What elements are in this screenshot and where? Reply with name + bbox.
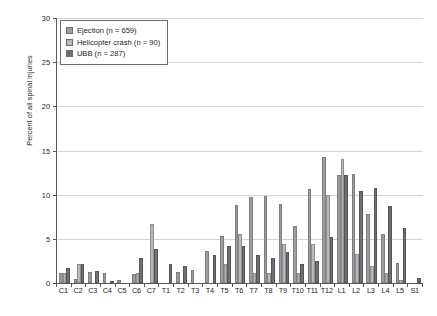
- x-axis-tick-label: C3: [85, 286, 100, 295]
- bar: [183, 266, 187, 283]
- legend-swatch-icon: [66, 50, 73, 57]
- bar: [154, 249, 158, 283]
- bar: [139, 258, 143, 283]
- x-axis-tick-label: T8: [261, 286, 276, 295]
- x-axis-tick-label: C4: [100, 286, 115, 295]
- x-axis-tick-label: T10: [290, 286, 305, 295]
- x-axis-tick-label: C6: [129, 286, 144, 295]
- bar-group: [335, 18, 350, 283]
- x-axis-tick-label: L1: [334, 286, 349, 295]
- bar-group: [233, 18, 248, 283]
- bar: [264, 196, 268, 283]
- y-axis-tick: [53, 151, 57, 152]
- bar: [359, 191, 363, 283]
- bar-group: [277, 18, 292, 283]
- x-axis-tick-label: T5: [217, 286, 232, 295]
- bar: [213, 255, 217, 283]
- bar-group: [379, 18, 394, 283]
- x-axis-tick-label: T6: [232, 286, 247, 295]
- legend-item: UBB (n = 287): [66, 48, 160, 60]
- bar-group: [321, 18, 336, 283]
- bar: [88, 272, 92, 283]
- bar: [300, 264, 304, 283]
- bar: [403, 228, 407, 283]
- bar: [169, 264, 173, 283]
- bar: [249, 197, 253, 283]
- x-axis-tick-label: S1: [407, 286, 422, 295]
- y-axis-tick: [53, 195, 57, 196]
- x-axis-tick-label: L2: [349, 286, 364, 295]
- bar: [242, 246, 246, 283]
- bar: [176, 272, 180, 283]
- x-axis-tick-label: L5: [393, 286, 408, 295]
- legend-item: Helicopter crash (n = 90): [66, 37, 160, 49]
- x-axis-tick-label: T1: [158, 286, 173, 295]
- bar: [330, 237, 334, 283]
- x-axis-tick: [422, 283, 423, 287]
- x-axis-tick-label: L3: [363, 286, 378, 295]
- bar: [388, 206, 392, 283]
- bar: [344, 175, 348, 283]
- x-axis-labels: C1C2C3C4C5C6C7T1T2T3T4T5T6T7T8T9T10T11T1…: [56, 286, 422, 295]
- x-axis-tick-label: T12: [320, 286, 335, 295]
- legend-item-label: Ejection (n = 659): [77, 25, 137, 37]
- y-axis-tick-label: 5: [20, 234, 50, 243]
- y-axis-tick-label: 30: [20, 14, 50, 23]
- bar-group: [189, 18, 204, 283]
- bar: [286, 252, 290, 283]
- bar: [205, 251, 209, 283]
- bar: [66, 268, 70, 283]
- bar: [103, 273, 107, 283]
- x-axis-tick-label: C1: [56, 286, 71, 295]
- y-axis-tick-label: 10: [20, 190, 50, 199]
- bar: [191, 270, 195, 283]
- bar-group: [306, 18, 321, 283]
- x-axis-tick-label: T11: [305, 286, 320, 295]
- bar-group: [174, 18, 189, 283]
- x-axis-tick-label: C5: [115, 286, 130, 295]
- y-axis-tick: [53, 106, 57, 107]
- bar: [81, 264, 85, 283]
- bar-group: [218, 18, 233, 283]
- bar-group: [408, 18, 423, 283]
- bar: [256, 255, 260, 283]
- bar-group: [394, 18, 409, 283]
- x-axis-tick-label: T2: [173, 286, 188, 295]
- y-axis-tick-label: 15: [20, 146, 50, 155]
- x-axis-tick-label: T7: [246, 286, 261, 295]
- y-axis-tick: [53, 239, 57, 240]
- bar: [315, 261, 319, 283]
- x-axis-tick-label: T9: [276, 286, 291, 295]
- legend-swatch-icon: [66, 39, 73, 46]
- y-axis-tick-label: 0: [20, 279, 50, 288]
- y-axis-tick-label: 20: [20, 102, 50, 111]
- bar-group: [203, 18, 218, 283]
- x-axis-tick-label: T3: [188, 286, 203, 295]
- x-axis-tick-label: L4: [378, 286, 393, 295]
- bar-group: [291, 18, 306, 283]
- bar: [271, 258, 275, 283]
- x-axis-tick-label: C2: [71, 286, 86, 295]
- y-axis-tick: [53, 18, 57, 19]
- bar-group: [350, 18, 365, 283]
- bar-group: [364, 18, 379, 283]
- bar: [95, 271, 99, 283]
- bar: [227, 246, 231, 283]
- x-axis-tick-label: C7: [144, 286, 159, 295]
- legend-item-label: Helicopter crash (n = 90): [77, 37, 160, 49]
- bar-chart: Percent of all spinal injuries 051015202…: [0, 0, 437, 316]
- legend-item-label: UBB (n = 287): [77, 48, 125, 60]
- legend-swatch-icon: [66, 27, 73, 34]
- legend-item: Ejection (n = 659): [66, 25, 160, 37]
- legend: Ejection (n = 659)Helicopter crash (n = …: [60, 20, 168, 65]
- x-axis-tick-label: T4: [202, 286, 217, 295]
- bar-group: [247, 18, 262, 283]
- bar-group: [262, 18, 277, 283]
- y-axis-tick: [53, 62, 57, 63]
- y-axis-tick-label: 25: [20, 58, 50, 67]
- bar: [374, 188, 378, 283]
